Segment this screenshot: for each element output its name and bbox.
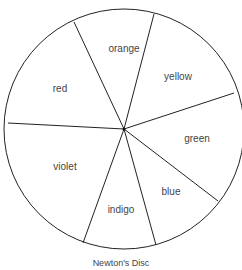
segment-label-blue: blue xyxy=(162,186,181,197)
segment-label-red: red xyxy=(53,83,67,94)
diagram-caption: Newton's Disc xyxy=(0,258,242,268)
newtons-disc-diagram: red orange yellow green blue indigo viol… xyxy=(0,0,242,270)
segment-label-yellow: yellow xyxy=(164,71,193,82)
center-point xyxy=(123,128,126,131)
segment-label-indigo: indigo xyxy=(108,204,135,215)
segment-label-green: green xyxy=(184,133,210,144)
segment-label-violet: violet xyxy=(53,161,77,172)
segment-label-orange: orange xyxy=(108,43,140,54)
